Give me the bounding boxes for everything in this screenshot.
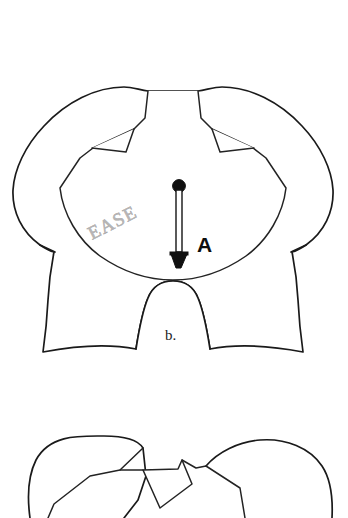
ease-arrow-shaft: [176, 190, 182, 252]
pattern-diagram-canvas: EASE A b.: [0, 0, 348, 518]
lower-piece-center-vee: [143, 460, 192, 508]
point-a-label: A: [197, 233, 212, 256]
lower-pattern-piece-outline: [28, 436, 146, 518]
ease-arrow-tip-bar: [170, 252, 188, 255]
figure-b-label: b.: [165, 327, 176, 343]
pattern-figure: EASE A b.: [0, 0, 348, 518]
